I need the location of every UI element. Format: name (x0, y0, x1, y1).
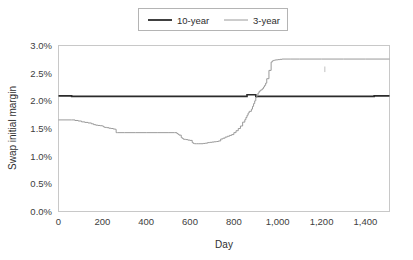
legend-label-10-year: 10-year (177, 15, 209, 26)
x-tick-label: 200 (94, 216, 110, 227)
y-axis-title: Swap initial margin (7, 86, 18, 170)
y-tick-label: 0.0% (30, 206, 52, 217)
x-tick-label: 1,400 (353, 216, 377, 227)
x-tick-label: 400 (138, 216, 154, 227)
legend-label-3-year: 3-year (253, 15, 280, 26)
swap-initial-margin-line-chart: 0.0%0.5%1.0%1.5%2.0%2.5%3.0% 02004006008… (0, 0, 413, 260)
x-tick-label: 1,200 (310, 216, 334, 227)
x-tick-label: 800 (226, 216, 242, 227)
y-tick-label: 0.5% (30, 178, 52, 189)
y-tick-label: 1.5% (30, 123, 52, 134)
y-tick-label: 1.0% (30, 151, 52, 162)
y-tick-label: 3.0% (30, 40, 52, 51)
chart-background (0, 0, 413, 260)
x-tick-label: 1,000 (266, 216, 290, 227)
chart-container: 0.0%0.5%1.0%1.5%2.0%2.5%3.0% 02004006008… (0, 0, 413, 260)
x-tick-label: 600 (182, 216, 198, 227)
y-tick-label: 2.0% (30, 95, 52, 106)
x-tick-label: 0 (56, 216, 61, 227)
x-axis-title: Day (215, 239, 233, 250)
y-tick-label: 2.5% (30, 68, 52, 79)
chart-legend: 10-year 3-year (139, 9, 288, 31)
